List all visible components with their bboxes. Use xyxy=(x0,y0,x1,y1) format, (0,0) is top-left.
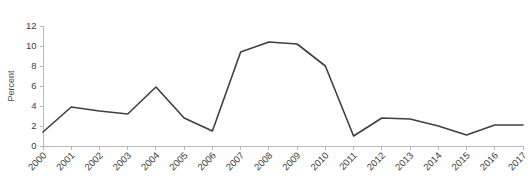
x-tick-label: 2015 xyxy=(449,150,472,173)
line-chart-figure: 024681012 Percent 2000200120022003200420… xyxy=(0,0,531,188)
x-tick-label: 2000 xyxy=(26,150,49,173)
x-tick-label: 2007 xyxy=(223,150,246,173)
y-axis-group: 024681012 Percent xyxy=(6,20,43,151)
chart-canvas: 024681012 Percent 2000200120022003200420… xyxy=(0,0,531,188)
x-tick-label: 2009 xyxy=(280,150,303,173)
x-tick-label: 2013 xyxy=(393,150,416,173)
data-series-line xyxy=(43,42,523,136)
x-axis-ticks: 2000200120022003200420052006200720082009… xyxy=(26,146,529,172)
x-tick-label: 2003 xyxy=(110,150,133,173)
x-tick-label: 2005 xyxy=(167,150,190,173)
x-tick-label: 2002 xyxy=(82,150,105,173)
y-tick-label: 12 xyxy=(26,20,37,31)
y-tick-label: 10 xyxy=(26,40,37,51)
x-tick-label: 2004 xyxy=(139,150,162,173)
y-axis-label: Percent xyxy=(6,70,16,102)
x-tick-label: 2016 xyxy=(477,150,500,173)
y-tick-label: 0 xyxy=(31,140,36,151)
y-tick-label: 2 xyxy=(31,120,36,131)
series-group xyxy=(43,42,523,136)
y-axis-ticks: 024681012 xyxy=(26,20,43,151)
y-tick-label: 4 xyxy=(31,100,36,111)
x-tick-label: 2008 xyxy=(252,150,275,173)
y-tick-label: 8 xyxy=(31,60,36,71)
x-tick-label: 2011 xyxy=(337,150,359,172)
x-tick-label: 2010 xyxy=(308,150,331,173)
x-tick-label: 2001 xyxy=(54,150,77,173)
x-tick-label: 2014 xyxy=(421,150,444,173)
x-axis-group: 2000200120022003200420052006200720082009… xyxy=(26,146,529,172)
y-tick-label: 6 xyxy=(31,80,36,91)
x-tick-label: 2012 xyxy=(365,150,388,173)
x-tick-label: 2017 xyxy=(506,150,529,173)
x-tick-label: 2006 xyxy=(195,150,218,173)
